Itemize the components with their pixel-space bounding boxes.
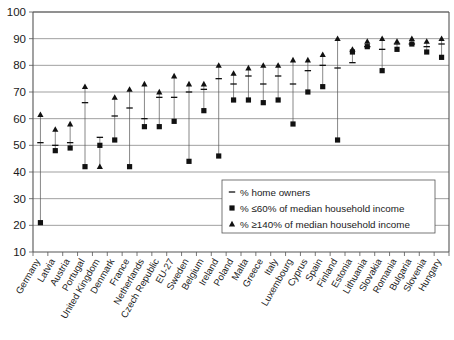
data-point-square <box>439 55 444 60</box>
data-point-square <box>172 119 177 124</box>
y-axis-tick-label: 40 <box>13 166 26 178</box>
data-point-square <box>276 97 281 102</box>
data-point-square <box>394 47 399 52</box>
data-point-square <box>261 100 266 105</box>
data-point-square <box>424 49 429 54</box>
data-point-square <box>335 137 340 142</box>
data-point-square <box>365 44 370 49</box>
legend-label: % ≥140% of median household income <box>240 219 410 230</box>
chart-container: 100908070605040302010 GermanyLatviaAustr… <box>0 0 454 340</box>
y-axis-tick-label: 20 <box>13 219 26 231</box>
data-point-square <box>201 108 206 113</box>
data-point-square <box>186 159 191 164</box>
data-point-square <box>320 84 325 89</box>
data-point-square <box>112 137 117 142</box>
data-point-square <box>409 41 414 46</box>
data-point-square <box>142 124 147 129</box>
data-point-square <box>68 145 73 150</box>
data-point-square <box>246 97 251 102</box>
scatter-chart: 100908070605040302010 GermanyLatviaAustr… <box>0 0 454 340</box>
data-point-square <box>216 153 221 158</box>
data-point-square <box>231 97 236 102</box>
chart-legend: % home owners% ≤60% of median household … <box>222 180 435 233</box>
data-point-square <box>380 68 385 73</box>
data-point-square <box>290 121 295 126</box>
y-axis-tick-label: 30 <box>13 193 26 205</box>
data-point-square <box>97 143 102 148</box>
legend-label: % home owners <box>240 187 310 198</box>
data-point-square <box>82 164 87 169</box>
data-point-square <box>305 89 310 94</box>
data-point-square <box>38 220 43 225</box>
y-axis-tick-label: 50 <box>13 139 26 151</box>
y-axis-tick-label: 90 <box>13 33 26 45</box>
y-axis-tick-label: 70 <box>13 86 26 98</box>
y-axis-tick-label: 100 <box>7 6 26 18</box>
data-point-square <box>127 164 132 169</box>
data-point-square <box>157 124 162 129</box>
data-point-legend-square <box>229 205 234 210</box>
y-axis-tick-label: 60 <box>13 113 26 125</box>
y-axis-tick-label: 80 <box>13 59 26 71</box>
y-axis-tick-label: 10 <box>13 246 26 258</box>
data-point-square <box>53 148 58 153</box>
legend-label: % ≤60% of median household income <box>240 203 405 214</box>
